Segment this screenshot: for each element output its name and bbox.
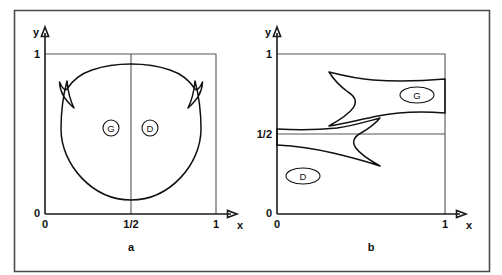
panel-b-region-D-outline	[277, 118, 380, 166]
panel-b-ytick-half: 1/2	[257, 128, 272, 140]
panel-a-label-G: G	[107, 123, 114, 134]
panel-a-ytick-0: 0	[34, 207, 40, 219]
panel-b-xtick-1: 1	[442, 218, 448, 230]
figure-svg: G D 1 0 0 1/2 1 y x a	[0, 0, 502, 275]
panel-a-label-D: D	[147, 123, 154, 134]
panel-a-caption: a	[128, 241, 135, 253]
panel-b-xtick-0: 0	[274, 218, 280, 230]
panel-b-region-G-outline	[329, 72, 445, 126]
panel-b: G D 1 1/2 0 0 1 y x b	[257, 26, 473, 253]
panel-a-xtick-half: 1/2	[123, 218, 138, 230]
panel-a-xtick-0: 0	[42, 218, 48, 230]
figure-container: G D 1 0 0 1/2 1 y x a	[0, 0, 502, 275]
panel-b-ytick-1: 1	[266, 48, 272, 60]
outer-frame	[15, 11, 490, 272]
panel-b-ytick-0: 0	[266, 207, 272, 219]
panel-a-xtick-1: 1	[213, 218, 219, 230]
panel-a: G D 1 0 0 1/2 1 y x a	[33, 26, 244, 253]
panel-a-x-axis-label: x	[237, 219, 244, 231]
panel-a-ytick-1: 1	[34, 48, 40, 60]
panel-b-y-axis-label: y	[265, 26, 272, 38]
panel-b-label-D: D	[300, 171, 307, 182]
panel-b-x-axis-label: x	[466, 219, 473, 231]
panel-b-caption: b	[368, 241, 375, 253]
panel-a-y-axis-label: y	[33, 26, 40, 38]
panel-b-label-G: G	[413, 90, 420, 101]
